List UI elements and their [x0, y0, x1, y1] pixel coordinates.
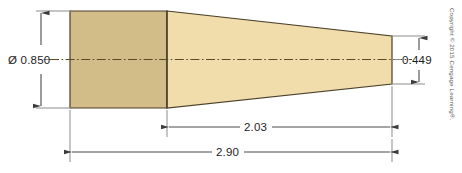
taper-length-label: 2.03: [244, 121, 267, 133]
engineering-drawing: Ø 0.850 0.449 2.03 2.90 Copy: [0, 0, 462, 173]
overall-length-dimension: 2.90: [70, 110, 392, 162]
overall-length-label: 2.90: [216, 146, 239, 158]
minor-diameter-dimension: 0.449: [390, 36, 432, 84]
major-diameter-label: Ø 0.850: [8, 54, 50, 66]
minor-diameter-label: 0.449: [402, 54, 432, 66]
copyright-notice: Copyright © 2015 Cengage Learning®.: [449, 8, 456, 121]
drawing-canvas: Ø 0.850 0.449 2.03 2.90 Copy: [0, 0, 462, 173]
